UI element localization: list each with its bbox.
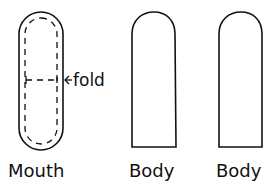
fold-label: fold [73,70,105,90]
pattern-diagram: fold Mouth Body Body [0,0,276,186]
body-piece-1 [132,12,176,147]
mouth-piece [19,12,63,150]
body-label-2: Body [216,160,262,181]
fold-arrow-icon [65,76,72,84]
body-piece-2 [219,12,262,147]
body-label-1: Body [129,160,175,181]
mouth-stitch-line [25,18,57,144]
mouth-label: Mouth [8,160,64,181]
